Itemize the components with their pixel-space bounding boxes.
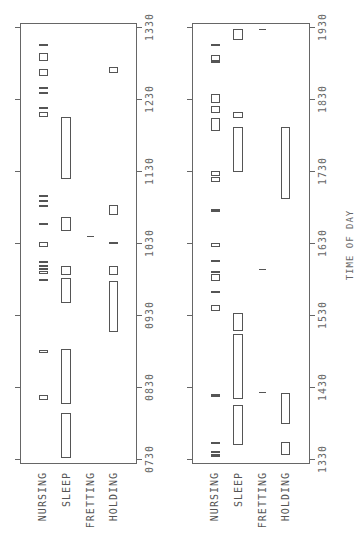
event-holding — [109, 242, 118, 244]
event-nursing — [211, 171, 220, 176]
tick-label: 1330 — [144, 7, 156, 47]
tick-mark — [187, 459, 192, 460]
event-sleep — [61, 266, 71, 276]
event-nursing — [211, 177, 220, 182]
tick-mark — [310, 315, 315, 316]
tick-label: 1930 — [317, 7, 329, 47]
event-nursing — [39, 44, 48, 46]
tick-label: 0830 — [144, 367, 156, 407]
event-sleep — [233, 127, 243, 173]
event-holding — [109, 281, 118, 331]
event-holding — [281, 442, 290, 455]
event-nursing — [39, 92, 48, 94]
label-nursing-morning: NURSING — [37, 472, 49, 542]
event-nursing — [211, 274, 220, 281]
event-sleep — [61, 117, 71, 179]
event-fretting — [259, 29, 266, 30]
axis-title: TIME OF DAY — [344, 200, 356, 290]
tick-mark — [15, 243, 20, 244]
event-nursing — [211, 243, 220, 247]
tick-label: 1130 — [144, 151, 156, 191]
tick-label: 1530 — [317, 295, 329, 335]
event-nursing — [211, 209, 220, 211]
tick-label: 1330 — [317, 439, 329, 479]
tick-mark — [15, 99, 20, 100]
event-nursing — [39, 112, 48, 117]
tick-label: 1630 — [317, 223, 329, 263]
event-sleep — [233, 29, 243, 40]
event-sleep — [61, 349, 71, 404]
event-nursing — [211, 44, 220, 46]
event-nursing — [39, 268, 48, 270]
tick-mark — [187, 315, 192, 316]
event-fretting — [259, 269, 266, 270]
tick-mark — [137, 171, 142, 172]
event-sleep — [233, 405, 243, 445]
event-nursing — [39, 107, 48, 109]
tick-mark — [187, 243, 192, 244]
event-holding — [109, 205, 118, 216]
tick-mark — [15, 27, 20, 28]
event-nursing — [39, 223, 48, 225]
tick-mark — [310, 99, 315, 100]
tick-mark — [310, 243, 315, 244]
event-nursing — [211, 260, 220, 262]
tick-mark — [137, 27, 142, 28]
event-nursing — [39, 271, 48, 275]
event-nursing — [211, 291, 220, 293]
event-sleep — [233, 334, 243, 399]
event-holding — [109, 67, 118, 73]
label-holding-afternoon: HOLDING — [280, 472, 292, 542]
tick-mark — [310, 459, 315, 460]
event-nursing — [39, 205, 48, 207]
event-fretting — [259, 392, 266, 393]
tick-label: 1730 — [317, 151, 329, 191]
label-sleep-afternoon: SLEEP — [233, 472, 245, 542]
label-holding-morning: HOLDING — [108, 472, 120, 542]
tick-mark — [187, 27, 192, 28]
tick-label: 1030 — [144, 223, 156, 263]
event-sleep — [61, 413, 71, 457]
event-nursing — [211, 106, 220, 113]
event-nursing — [39, 265, 48, 267]
event-nursing — [39, 242, 48, 247]
tick-mark — [137, 99, 142, 100]
event-holding — [281, 393, 290, 424]
event-nursing — [39, 350, 48, 354]
event-fretting — [87, 236, 94, 237]
event-sleep — [61, 278, 71, 303]
event-nursing — [211, 55, 220, 61]
tick-mark — [137, 459, 142, 460]
tick-label: 1230 — [144, 79, 156, 119]
tick-mark — [15, 171, 20, 172]
tick-mark — [15, 387, 20, 388]
label-sleep-morning: SLEEP — [61, 472, 73, 542]
tick-mark — [187, 171, 192, 172]
label-nursing-afternoon: NURSING — [209, 472, 221, 542]
event-holding — [281, 127, 290, 199]
event-nursing — [39, 195, 48, 197]
tick-mark — [137, 315, 142, 316]
tick-label: 1830 — [317, 79, 329, 119]
event-nursing — [39, 87, 48, 89]
tick-mark — [187, 99, 192, 100]
event-sleep — [61, 217, 71, 231]
label-fretting-morning: FRETTING — [85, 472, 97, 542]
tick-mark — [137, 387, 142, 388]
tick-label: 0930 — [144, 295, 156, 335]
event-nursing — [211, 442, 220, 444]
label-fretting-afternoon: FRETTING — [257, 472, 269, 542]
event-holding — [109, 266, 118, 276]
tick-label: 1430 — [317, 367, 329, 407]
tick-mark — [15, 459, 20, 460]
event-nursing — [39, 200, 48, 202]
event-nursing — [211, 61, 220, 63]
event-nursing — [39, 261, 48, 263]
event-nursing — [211, 305, 220, 311]
tick-label: 0730 — [144, 439, 156, 479]
tick-mark — [187, 387, 192, 388]
event-nursing — [39, 69, 48, 76]
event-nursing — [211, 271, 220, 273]
event-nursing — [211, 454, 220, 456]
event-nursing — [39, 53, 48, 60]
